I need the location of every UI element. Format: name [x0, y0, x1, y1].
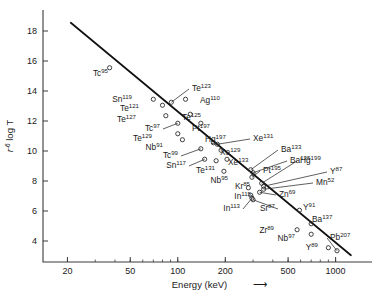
x-tick-label: 50	[125, 266, 135, 276]
scatter-plot: 205010020050010004681012141618r-6 log TE…	[0, 0, 377, 296]
point-label: Xe131	[253, 132, 274, 143]
point-label: Sn117	[166, 159, 186, 170]
point-label: Tc95	[93, 67, 109, 78]
point-label: Xe133	[228, 156, 249, 167]
point-label: Y89	[306, 241, 319, 252]
point-label: In115	[234, 190, 251, 201]
point-label: Pt195	[263, 164, 282, 175]
point-marker	[180, 138, 184, 142]
y-tick-label: 18	[27, 26, 37, 36]
point-label: Y87	[330, 165, 343, 176]
point-label: Te127	[117, 113, 137, 124]
point-label: Zr89	[259, 224, 274, 235]
point-label: Te131	[196, 164, 216, 175]
y-tick-label: 4	[32, 236, 37, 246]
point-label: Te123	[192, 82, 212, 93]
point-label: Nb95	[211, 174, 229, 185]
point-label: Nb97	[278, 232, 296, 243]
data-point: Ba137	[309, 213, 333, 226]
data-point: Nb95	[211, 169, 229, 185]
point-label: Te121	[120, 102, 140, 113]
data-point: Tc95	[93, 66, 112, 78]
y-tick-label: 6	[32, 206, 37, 216]
y-tick-label: 8	[32, 176, 37, 186]
data-point: Te127	[117, 113, 168, 124]
point-label: Te125	[182, 111, 202, 122]
point-marker	[176, 132, 180, 136]
data-point: Sr87	[251, 198, 278, 213]
point-label: Sr87	[260, 202, 276, 213]
point-label: Hg199	[300, 154, 321, 165]
data-point: Y89	[306, 241, 331, 252]
point-marker	[326, 246, 330, 250]
y-tick-label: 14	[27, 86, 37, 96]
point-label: Y91	[303, 201, 316, 212]
point-marker	[183, 97, 187, 101]
point-label: Mn52	[316, 176, 335, 187]
y-axis-title: r-6 log T	[4, 120, 15, 153]
y-tick-label: 16	[27, 56, 37, 66]
point-marker	[151, 97, 155, 101]
point-marker	[295, 228, 299, 232]
point-label: Nb91	[146, 141, 164, 152]
data-point: Te131	[196, 159, 218, 175]
y-tick-label: 12	[27, 116, 37, 126]
point-marker	[222, 169, 226, 173]
data-point: Pb207	[327, 231, 351, 253]
x-tick-label: 500	[281, 266, 296, 276]
point-marker	[164, 114, 168, 118]
data-point: Te121	[120, 102, 165, 113]
point-marker	[160, 103, 164, 107]
point-label: Ag110	[200, 94, 220, 105]
leader-line	[181, 149, 201, 156]
x-tick-label: 200	[218, 266, 233, 276]
point-marker	[250, 175, 254, 179]
point-marker	[214, 159, 218, 163]
x-axis-title: Energy (keV)	[172, 279, 227, 290]
x-tick-label: 1000	[326, 266, 346, 276]
data-point: Te125	[182, 111, 202, 122]
leader-line	[171, 89, 189, 102]
data-point: Ag110	[183, 94, 220, 105]
data-point: Xe133	[225, 156, 249, 167]
x-tick-label: 100	[170, 266, 185, 276]
x-tick-label: 20	[62, 266, 72, 276]
point-label: Pb207	[330, 231, 351, 242]
data-point: Y91	[297, 201, 316, 213]
svg-text:r-6 log T: r-6 log T	[4, 120, 15, 153]
point-label: Zn69	[279, 188, 296, 199]
point-label: Ba137	[312, 213, 333, 224]
chart-container: 205010020050010004681012141618r-6 log TE…	[0, 0, 377, 296]
point-label: Ba133	[281, 143, 302, 154]
x-axis-arrow-icon: ⟶	[253, 279, 267, 290]
point-label: In113	[223, 202, 240, 213]
point-marker	[108, 66, 112, 70]
point-marker	[309, 232, 313, 236]
y-tick-label: 10	[27, 146, 37, 156]
